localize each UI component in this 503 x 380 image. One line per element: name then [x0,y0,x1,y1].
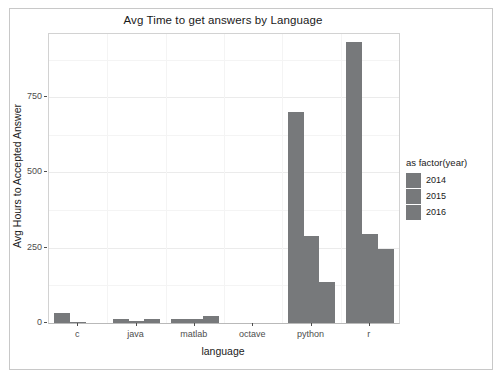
plot-panel [48,33,400,324]
legend-label: 2016 [426,207,446,217]
x-tick-mark [311,323,312,326]
plot-area [49,34,399,323]
bar [288,112,304,323]
x-tick-label: r [334,329,404,339]
legend-rows: 201420152016 [406,172,494,220]
gridline-vertical [224,34,225,323]
bar [54,313,70,323]
legend: as factor(year) 201420152016 [406,157,494,220]
chart-title: Avg Time to get answers by Language [48,14,398,26]
bar [319,282,335,323]
bar [346,42,362,323]
legend-label: 2014 [426,175,446,185]
x-tick-mark [252,323,253,326]
bar [304,236,320,323]
y-tick-label: 0 [8,317,42,327]
gridline-vertical [166,34,167,323]
bar [378,249,394,323]
y-tick-mark [44,247,47,248]
legend-swatch [406,173,421,188]
y-tick-mark [44,171,47,172]
chart-figure: Avg Time to get answers by Language 0250… [0,0,503,380]
x-tick-mark [77,323,78,326]
legend-item: 2015 [406,188,494,204]
gridline-vertical [341,34,342,323]
y-axis-title: Avg Hours to Accepted Answer [11,76,23,276]
gridline-vertical [282,34,283,323]
legend-item: 2016 [406,204,494,220]
bar [362,234,378,323]
x-tick-mark [369,323,370,326]
y-tick-mark [44,96,47,97]
legend-title: as factor(year) [406,157,494,168]
gridline-vertical [107,34,108,323]
legend-swatch [406,205,421,220]
x-axis-title: language [48,345,398,357]
x-axis: cjavamatlaboctavepythonr [48,323,398,345]
bar [203,316,219,323]
y-tick-mark [44,322,47,323]
x-tick-mark [194,323,195,326]
legend-item: 2014 [406,172,494,188]
x-tick-mark [136,323,137,326]
legend-label: 2015 [426,191,446,201]
legend-swatch [406,189,421,204]
